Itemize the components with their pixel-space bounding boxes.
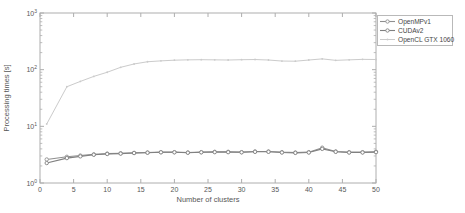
- data-point-cudav2: [307, 151, 310, 154]
- figure: 05101520253035404550100101102103Number o…: [0, 0, 465, 213]
- legend-item-openmpv1: OpenMPv1: [380, 17, 450, 26]
- data-point-cudav2: [200, 151, 203, 154]
- x-tick-label: 40: [305, 186, 313, 193]
- data-point-opencl-gtx-1060: [133, 63, 135, 65]
- data-point-opencl-gtx-1060: [120, 66, 122, 68]
- data-point-opencl-gtx-1060: [335, 59, 337, 61]
- data-point-opencl-gtx-1060: [200, 59, 202, 61]
- data-point-opencl-gtx-1060: [187, 59, 189, 61]
- legend-item-cudav2: CUDAv2: [380, 26, 450, 35]
- data-point-opencl-gtx-1060: [174, 59, 176, 61]
- y-tick-label: 102: [26, 64, 37, 73]
- data-point-cudav2: [267, 150, 270, 153]
- data-point-cudav2: [334, 150, 337, 153]
- data-point-opencl-gtx-1060: [106, 71, 108, 73]
- legend-sample-icon: [380, 36, 395, 43]
- data-point-opencl-gtx-1060: [348, 59, 350, 61]
- data-point-opencl-gtx-1060: [93, 76, 95, 78]
- legend: OpenMPv1 CUDAv2 OpenCL GTX 1060: [377, 15, 453, 46]
- data-point-opencl-gtx-1060: [281, 60, 283, 62]
- legend-label: OpenMPv1: [398, 17, 431, 26]
- x-tick-label: 30: [238, 186, 246, 193]
- legend-item-opencl-gtx-1060: OpenCL GTX 1060: [380, 35, 450, 44]
- data-point-opencl-gtx-1060: [375, 59, 377, 61]
- data-point-opencl-gtx-1060: [362, 58, 364, 60]
- data-point-opencl-gtx-1060: [79, 81, 81, 83]
- data-point-cudav2: [213, 150, 216, 153]
- series-line-opencl-gtx-1060: [47, 59, 376, 124]
- legend-sample-icon: [380, 27, 395, 34]
- data-point-cudav2: [374, 150, 377, 153]
- data-point-cudav2: [106, 152, 109, 155]
- data-point-cudav2: [146, 151, 149, 154]
- y-tick-label: 100: [26, 178, 37, 187]
- data-point-cudav2: [253, 150, 256, 153]
- x-tick-label: 25: [204, 186, 212, 193]
- data-point-opencl-gtx-1060: [321, 58, 323, 60]
- y-axis-label: Processing times [s]: [2, 64, 11, 131]
- data-point-opencl-gtx-1060: [241, 59, 243, 61]
- data-point-opencl-gtx-1060: [46, 123, 48, 125]
- data-point-cudav2: [173, 151, 176, 154]
- data-point-opencl-gtx-1060: [268, 59, 270, 61]
- data-point-cudav2: [347, 151, 350, 154]
- x-tick-label: 5: [72, 186, 76, 193]
- data-point-cudav2: [280, 151, 283, 154]
- data-point-opencl-gtx-1060: [214, 59, 216, 61]
- data-point-cudav2: [226, 150, 229, 153]
- data-point-cudav2: [45, 161, 48, 164]
- data-point-cudav2: [240, 151, 243, 154]
- data-point-cudav2: [294, 151, 297, 154]
- x-tick-label: 45: [339, 186, 347, 193]
- y-tick-label: 103: [26, 8, 37, 17]
- x-tick-label: 35: [271, 186, 279, 193]
- legend-label: OpenCL GTX 1060: [398, 35, 454, 44]
- axes-box: [40, 13, 376, 183]
- data-point-cudav2: [65, 156, 68, 159]
- x-tick-label: 50: [372, 186, 380, 193]
- data-point-opencl-gtx-1060: [308, 59, 310, 61]
- data-point-cudav2: [186, 151, 189, 154]
- data-point-cudav2: [119, 152, 122, 155]
- data-point-cudav2: [92, 153, 95, 156]
- y-tick-label: 101: [26, 121, 37, 130]
- legend-line-marker-sample: [380, 36, 395, 43]
- x-tick-label: 0: [38, 186, 42, 193]
- data-point-cudav2: [321, 147, 324, 150]
- x-tick-label: 15: [137, 186, 145, 193]
- legend-line-marker-sample: [380, 18, 395, 25]
- data-point-cudav2: [159, 151, 162, 154]
- series-line-cudav2: [47, 149, 376, 163]
- legend-line-marker-sample: [380, 27, 395, 34]
- data-point-cudav2: [79, 155, 82, 158]
- data-point-cudav2: [132, 151, 135, 154]
- data-point-cudav2: [361, 151, 364, 154]
- data-point-opencl-gtx-1060: [254, 59, 256, 61]
- x-tick-label: 10: [103, 186, 111, 193]
- legend-label: CUDAv2: [398, 26, 424, 35]
- data-point-opencl-gtx-1060: [66, 86, 68, 88]
- data-point-opencl-gtx-1060: [294, 60, 296, 62]
- data-point-openmpv1: [45, 158, 48, 161]
- x-tick-label: 20: [171, 186, 179, 193]
- data-point-opencl-gtx-1060: [227, 59, 229, 61]
- data-point-opencl-gtx-1060: [147, 61, 149, 63]
- x-axis-label: Number of clusters: [177, 195, 240, 204]
- legend-sample-icon: [380, 18, 395, 25]
- data-point-opencl-gtx-1060: [160, 60, 162, 62]
